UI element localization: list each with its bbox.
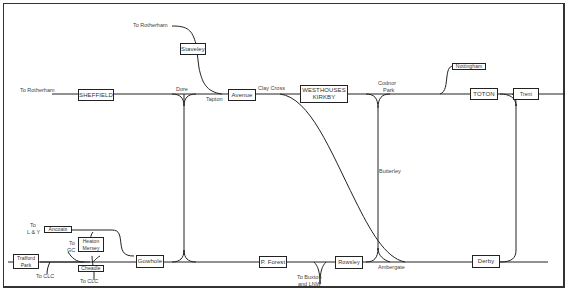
label-to-clc-right: To CLC — [80, 278, 98, 285]
label-and-lnw: and LNW — [298, 281, 321, 288]
label-tapton: Tapton — [206, 96, 223, 103]
station-label-line1: Trafford — [17, 255, 35, 262]
label-codnor-park: Park — [383, 87, 394, 94]
station-nottingham[interactable]: Nottingham — [452, 63, 486, 70]
label-to-gc: To — [69, 240, 75, 247]
track-staveley — [172, 26, 222, 94]
station-label: Ancoats — [49, 226, 68, 233]
station-derby[interactable]: Derby — [472, 255, 500, 268]
station-cheadle[interactable]: Cheadle — [78, 265, 104, 272]
station-label: Staveley — [181, 46, 205, 53]
label-ly: L & Y — [27, 229, 40, 236]
station-trent[interactable]: Trent — [513, 88, 539, 100]
station-label: Avenue — [232, 92, 253, 99]
station-ancoats[interactable]: Ancoats — [44, 226, 72, 233]
station-label-line2: KIRKBY — [313, 94, 336, 101]
station-label: Nottingham — [456, 63, 483, 70]
station-label-line2: Park — [21, 262, 32, 269]
station-staveley[interactable]: Staveley — [180, 43, 206, 55]
label-to-rotherham-left: To Rotherham — [20, 87, 55, 94]
station-label-line2: Mersey — [83, 245, 100, 252]
label-butterley: Butterley — [379, 168, 401, 175]
station-label: Gowhole — [138, 258, 162, 265]
track-nottingham — [440, 66, 454, 94]
station-rowsley[interactable]: Rowsley — [335, 256, 363, 269]
label-dore: Dore — [176, 86, 188, 93]
station-toton[interactable]: TOTON — [470, 88, 498, 100]
station-p-forest[interactable]: P. Forest — [259, 256, 287, 268]
station-avenue[interactable]: Avenue — [228, 89, 256, 101]
label-to-clc-left: To CLC — [36, 273, 54, 280]
station-sheffield[interactable]: SHEFFIELD — [78, 89, 114, 101]
station-gowhole[interactable]: Gowhole — [136, 255, 164, 268]
station-label-line1: WESTHOUSES — [302, 87, 346, 94]
station-label: TOTON — [473, 91, 494, 98]
station-label: Rowsley — [338, 259, 359, 266]
station-label: P. Forest — [261, 259, 285, 266]
station-label: Trent — [520, 91, 532, 98]
station-trafford-park[interactable]: Trafford Park — [13, 254, 39, 269]
label-gc: GC — [67, 247, 75, 254]
label-codnor: Codnor — [378, 80, 396, 87]
station-heaton-mersey[interactable]: Heaton Mersey — [78, 237, 104, 252]
label-to-rotherham-top: To Rotherham — [133, 22, 168, 29]
label-to-buxton: To Buxton — [297, 274, 321, 281]
station-label: Derby — [478, 258, 495, 265]
label-ambergate: Ambergate — [378, 264, 405, 271]
station-label-line1: Heaton — [83, 238, 100, 245]
track-gc — [68, 252, 84, 262]
station-westhouses-kirkby[interactable]: WESTHOUSES KIRKBY — [300, 85, 348, 103]
label-clay-cross: Clay Cross — [258, 85, 285, 92]
station-label: Cheadle — [81, 265, 100, 272]
station-label: SHEFFIELD — [79, 92, 113, 99]
label-to-ly: To — [30, 222, 36, 229]
track-claycross-ambergate — [280, 94, 405, 262]
